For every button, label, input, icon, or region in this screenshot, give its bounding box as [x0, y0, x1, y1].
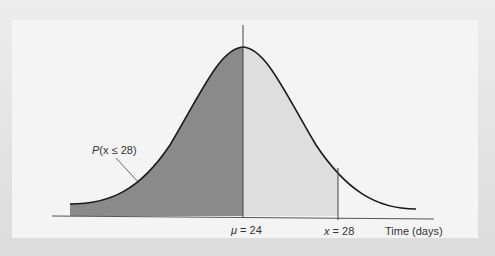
mean-label: μ = 24: [231, 224, 262, 236]
shaded-area-right: [243, 47, 338, 216]
area-pointer: [116, 158, 139, 183]
shaded-area-left: [70, 47, 243, 216]
normal-curve-diagram: [0, 0, 495, 256]
axis-label: Time (days): [385, 225, 443, 237]
area-label: P(x ≤ 28): [92, 144, 137, 156]
x-value-label: x = 28: [324, 225, 354, 237]
